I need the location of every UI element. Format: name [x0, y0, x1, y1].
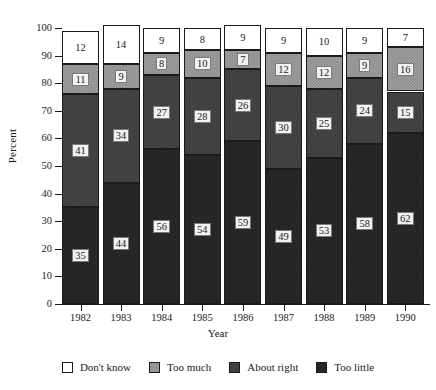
bar-segment-value: 62 [397, 212, 414, 225]
bar-segment[interactable]: 28 [184, 78, 221, 155]
y-axis-tick-label: 20 [18, 244, 52, 255]
bar-1988[interactable]: 53251210 [306, 28, 343, 304]
y-axis-tick-mark [55, 83, 62, 84]
bar-segment-value: 12 [275, 63, 292, 76]
bar-segment[interactable]: 53 [306, 158, 343, 304]
bar-segment[interactable]: 14 [103, 25, 140, 64]
bar-segment[interactable]: 8 [143, 53, 180, 75]
y-axis-title: Percent [6, 116, 18, 176]
bar-segment[interactable]: 10 [184, 50, 221, 78]
bar-segment-value: 56 [153, 220, 170, 233]
bar-segment-value: 12 [316, 66, 333, 79]
bar-segment[interactable]: 8 [184, 28, 221, 50]
bar-segment-value: 12 [73, 42, 88, 53]
y-axis-tick-label: 10 [18, 271, 52, 282]
bar-segment[interactable]: 27 [143, 75, 180, 150]
bar-segment[interactable]: 12 [265, 53, 302, 86]
bar-segment[interactable]: 9 [265, 28, 302, 53]
bar-segment-value: 58 [356, 217, 373, 230]
bar-segment-value: 9 [279, 35, 288, 46]
y-axis-tick-label: 30 [18, 216, 52, 227]
bar-segment-value: 10 [194, 57, 211, 70]
y-axis-tick-mark [55, 194, 62, 195]
bar-segment[interactable]: 44 [103, 183, 140, 304]
bar-segment[interactable]: 34 [103, 89, 140, 183]
bar-segment[interactable]: 54 [184, 155, 221, 304]
y-axis-tick-label: 90 [18, 51, 52, 62]
legend-item[interactable]: Don't know [62, 361, 131, 373]
bar-1982[interactable]: 35411112 [62, 28, 99, 304]
legend-item[interactable]: Too much [149, 361, 211, 373]
legend-item-label: Too much [167, 361, 211, 373]
bar-segment[interactable]: 35 [62, 207, 99, 304]
bar-segment[interactable]: 7 [224, 50, 261, 69]
x-axis-tick-mark [405, 305, 406, 311]
bar-segment[interactable]: 9 [224, 25, 261, 50]
bar-segment-value: 53 [316, 224, 333, 237]
bar-segment[interactable]: 41 [62, 94, 99, 207]
bar-segment[interactable]: 58 [346, 144, 383, 304]
x-axis-tick-label: 1986 [220, 312, 266, 323]
bar-segment-value: 28 [194, 110, 211, 123]
x-axis-tick-mark [202, 305, 203, 311]
bar-segment[interactable]: 59 [224, 141, 261, 304]
bar-segment-value: 54 [194, 223, 211, 236]
bar-segment[interactable]: 9 [143, 28, 180, 53]
bar-segment[interactable]: 24 [346, 78, 383, 144]
y-axis-tick-mark [55, 221, 62, 222]
legend-item-label: About right [247, 361, 298, 373]
bar-segment-value: 27 [153, 106, 170, 119]
bar-segment[interactable]: 30 [265, 86, 302, 169]
bar-segment[interactable]: 16 [387, 47, 424, 91]
bar-segment[interactable]: 10 [306, 28, 343, 56]
bar-segment-value: 14 [114, 39, 129, 50]
y-axis-tick-label: 100 [18, 23, 52, 34]
x-axis-title: Year [0, 327, 436, 339]
legend-item-label: Don't know [80, 361, 131, 373]
bar-segment-value: 9 [115, 70, 126, 83]
bar-segment-value: 10 [317, 36, 332, 47]
bar-segment[interactable]: 12 [62, 31, 99, 64]
bar-segment-value: 15 [397, 106, 414, 119]
bar-segment-value: 8 [198, 34, 207, 45]
bar-segment-value: 8 [156, 57, 167, 70]
x-axis-tick-label: 1985 [179, 312, 225, 323]
bar-segment[interactable]: 56 [143, 149, 180, 304]
y-axis-tick-label: 0 [18, 299, 52, 310]
x-axis-tick-label: 1987 [261, 312, 307, 323]
y-axis-tick-mark [55, 166, 62, 167]
bar-segment[interactable]: 9 [346, 28, 383, 53]
y-axis-tick-mark [55, 56, 62, 57]
legend-swatch-dont-know [62, 362, 73, 373]
bar-segment-value: 49 [275, 230, 292, 243]
bar-segment[interactable]: 49 [265, 169, 302, 304]
bar-1989[interactable]: 582499 [346, 28, 383, 304]
bar-1987[interactable]: 4930129 [265, 28, 302, 304]
bar-1985[interactable]: 5428108 [184, 28, 221, 304]
bar-segment[interactable]: 12 [306, 56, 343, 89]
bar-segment-value: 16 [397, 63, 414, 76]
bar-segment[interactable]: 26 [224, 69, 261, 141]
legend-item[interactable]: Too little [316, 361, 374, 373]
bar-segment-value: 9 [157, 35, 166, 46]
y-axis-tick-label: 60 [18, 133, 52, 144]
legend-item[interactable]: About right [229, 361, 298, 373]
bar-segment[interactable]: 9 [346, 53, 383, 78]
bar-1986[interactable]: 592679 [224, 28, 261, 304]
bar-segment[interactable]: 9 [103, 64, 140, 89]
bar-segment[interactable]: 7 [387, 28, 424, 47]
chart-legend: Don't knowToo muchAbout rightToo little [0, 361, 436, 373]
y-axis-tick-label: 40 [18, 189, 52, 200]
y-axis-tick-label: 80 [18, 78, 52, 89]
bar-segment[interactable]: 11 [62, 64, 99, 94]
bar-segment[interactable]: 62 [387, 133, 424, 304]
bar-segment-value: 26 [235, 99, 252, 112]
bar-segment[interactable]: 15 [387, 92, 424, 133]
bar-segment[interactable]: 25 [306, 89, 343, 158]
bar-1990[interactable]: 6215167 [387, 28, 424, 304]
y-axis-tick-mark [55, 249, 62, 250]
bar-segment-value: 9 [360, 35, 369, 46]
bar-1984[interactable]: 562789 [143, 28, 180, 304]
bar-1983[interactable]: 4434914 [103, 28, 140, 304]
bar-segment-value: 44 [113, 237, 130, 250]
